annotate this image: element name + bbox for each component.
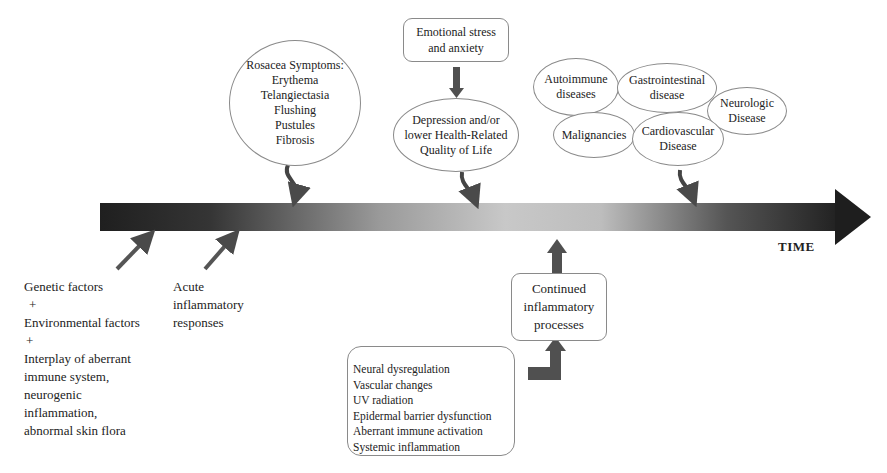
malignancies-ellipse: Malignancies (553, 112, 635, 158)
continued-line-2: inflammatory (524, 298, 595, 316)
acute-line-3: responses (173, 314, 244, 332)
up-right-arrow-icon-genetic (117, 238, 147, 269)
mechanism-systemic: Systemic inflammation (353, 440, 492, 456)
depression-line-3: Quality of Life (405, 143, 508, 158)
depression-line-2: lower Health-Related (405, 128, 508, 143)
mechanism-immune: Aberrant immune activation (353, 424, 492, 440)
causes-inflammation: inflammation, (24, 404, 140, 422)
up-right-arrow-icon-acute (205, 238, 232, 269)
causes-genetic: Genetic factors (24, 278, 140, 296)
gastrointestinal-ellipse: Gastrointestinal disease (617, 63, 717, 113)
causes-text: Genetic factors + Environmental factors … (24, 278, 140, 440)
symptom-telangiectasia: Telangiectasia (246, 88, 344, 103)
acute-line-2: inflammatory (173, 296, 244, 314)
symptom-pustules: Pustules (246, 118, 344, 133)
depression-line-1: Depression and/or (405, 113, 508, 128)
mechanism-vascular: Vascular changes (353, 378, 492, 394)
mechanism-uv: UV radiation (353, 393, 492, 409)
causes-neurogenic: neurogenic (24, 386, 140, 404)
continued-line-1: Continued (524, 280, 595, 298)
causes-plus-2: + (24, 332, 140, 350)
causes-interplay: Interplay of aberrant (24, 350, 140, 368)
down-arrow-icon-stress (449, 67, 464, 98)
stress-line-1: Emotional stress (416, 24, 496, 40)
causes-immune: immune system, (24, 368, 140, 386)
causes-plus-1: + (24, 296, 140, 314)
symptom-fibrosis: Fibrosis (246, 133, 344, 148)
cv-line-1: Cardiovascular (642, 124, 715, 139)
neuro-line-1: Neurologic (720, 96, 774, 111)
mechanism-epidermal: Epidermal barrier dysfunction (353, 409, 492, 425)
gi-line-2: disease (629, 88, 705, 103)
autoimmune-line-1: Autoimmune (544, 72, 607, 87)
autoimmune-line-2: diseases (544, 87, 607, 102)
continued-line-3: processes (524, 316, 595, 334)
symptom-erythema: Erythema (246, 73, 344, 88)
up-arrow-icon-continued (547, 239, 567, 274)
gi-line-1: Gastrointestinal (629, 73, 705, 88)
acute-text: Acute inflammatory responses (173, 278, 244, 332)
elbow-arrow-icon-mechanisms (528, 337, 566, 380)
symptom-flushing: Flushing (246, 103, 344, 118)
acute-line-1: Acute (173, 278, 244, 296)
rosacea-symptoms-ellipse: Rosacea Symptoms: Erythema Telangiectasi… (229, 40, 361, 166)
curved-arrow-icon-depression (462, 172, 474, 198)
causes-skin-flora: abnormal skin flora (24, 422, 140, 440)
malignancies-line: Malignancies (562, 128, 627, 143)
cardiovascular-ellipse: Cardiovascular Disease (632, 112, 724, 166)
cv-line-2: Disease (642, 139, 715, 154)
continued-inflammation-box: Continued inflammatory processes (511, 273, 607, 341)
curved-arrow-icon-comorbidities (680, 170, 692, 196)
curved-arrow-icon-symptoms (287, 165, 297, 196)
causes-environmental: Environmental factors (24, 314, 140, 332)
neuro-line-2: Disease (720, 111, 774, 126)
depression-ellipse: Depression and/or lower Health-Related Q… (393, 98, 519, 172)
emotional-stress-box: Emotional stress and anxiety (403, 18, 509, 62)
stress-line-2: and anxiety (416, 40, 496, 56)
symptoms-title: Rosacea Symptoms: (246, 58, 344, 73)
autoimmune-ellipse: Autoimmune diseases (533, 58, 619, 116)
mechanisms-box: Neural dysregulation Vascular changes UV… (347, 346, 515, 456)
mechanism-neural: Neural dysregulation (353, 362, 492, 378)
